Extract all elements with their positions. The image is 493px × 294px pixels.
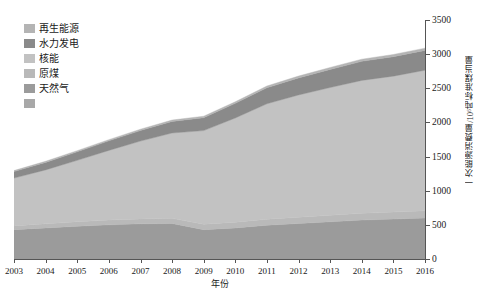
legend-label: 再生能源	[39, 23, 79, 34]
legend-item	[24, 96, 79, 110]
y-tick-label: 0	[432, 254, 437, 264]
x-tick-label: 2009	[195, 266, 213, 276]
x-tick-label: 2011	[258, 266, 276, 276]
y-tick-mark	[426, 122, 430, 123]
legend-item: 核能	[24, 51, 79, 65]
y-tick-mark	[426, 191, 430, 192]
x-tick-label: 2010	[226, 266, 244, 276]
legend-item: 水力发电	[24, 36, 79, 50]
legend-label: 核能	[39, 53, 59, 64]
x-tick-mark	[46, 259, 47, 263]
x-axis-title: 年份	[0, 279, 440, 289]
stacked-area-chart: 0500100015002000250030003500 20032004200…	[0, 0, 493, 294]
legend-swatch-icon	[24, 69, 35, 78]
x-tick-label: 2016	[416, 266, 434, 276]
x-tick-mark	[362, 259, 363, 263]
y-tick-label: 3000	[432, 49, 451, 59]
y-tick-label: 500	[432, 220, 446, 230]
legend-swatch-icon	[24, 84, 35, 93]
y-tick-label: 3500	[432, 15, 451, 25]
legend-item: 再生能源	[24, 21, 79, 35]
x-tick-label: 2007	[132, 266, 150, 276]
x-tick-mark	[299, 259, 300, 263]
legend-label: 天然气	[39, 83, 69, 94]
x-tick-label: 2012	[290, 266, 308, 276]
legend-label: 水力发电	[39, 38, 79, 49]
y-tick-label: 1000	[432, 186, 451, 196]
y-tick-label: 2500	[432, 83, 451, 93]
legend-swatch-icon	[24, 39, 35, 48]
legend-swatch-icon	[24, 54, 35, 63]
x-tick-mark	[393, 259, 394, 263]
y-tick-mark	[426, 259, 430, 260]
x-tick-mark	[172, 259, 173, 263]
legend-swatch-icon	[24, 99, 35, 108]
x-tick-mark	[204, 259, 205, 263]
x-axis-line	[14, 259, 426, 260]
x-tick-mark	[109, 259, 110, 263]
legend-label: 原煤	[39, 68, 59, 79]
legend-item: 天然气	[24, 81, 79, 95]
x-tick-mark	[14, 259, 15, 263]
x-tick-mark	[330, 259, 331, 263]
legend-item: 原煤	[24, 66, 79, 80]
x-tick-mark	[267, 259, 268, 263]
legend-swatch-icon	[24, 24, 35, 33]
y-tick-mark	[426, 54, 430, 55]
x-tick-mark	[235, 259, 236, 263]
x-tick-label: 2008	[163, 266, 181, 276]
x-tick-label: 2004	[37, 266, 55, 276]
y-tick-label: 1500	[432, 152, 451, 162]
x-tick-label: 2013	[321, 266, 339, 276]
x-tick-mark	[77, 259, 78, 263]
x-tick-label: 2014	[353, 266, 371, 276]
y-tick-mark	[426, 20, 430, 21]
x-tick-label: 2006	[100, 266, 118, 276]
y-tick-label: 2000	[432, 117, 451, 127]
y-tick-mark	[426, 88, 430, 89]
x-tick-label: 2015	[384, 266, 402, 276]
x-tick-label: 2003	[5, 266, 23, 276]
x-tick-mark	[141, 259, 142, 263]
y-axis-title: 一次能源消费量/10⁶吨标准煤当量	[465, 55, 481, 186]
x-tick-mark	[425, 259, 426, 263]
x-tick-label: 2005	[68, 266, 86, 276]
chart-legend: 再生能源水力发电核能原煤天然气	[24, 21, 79, 111]
y-tick-mark	[426, 225, 430, 226]
y-tick-mark	[426, 157, 430, 158]
